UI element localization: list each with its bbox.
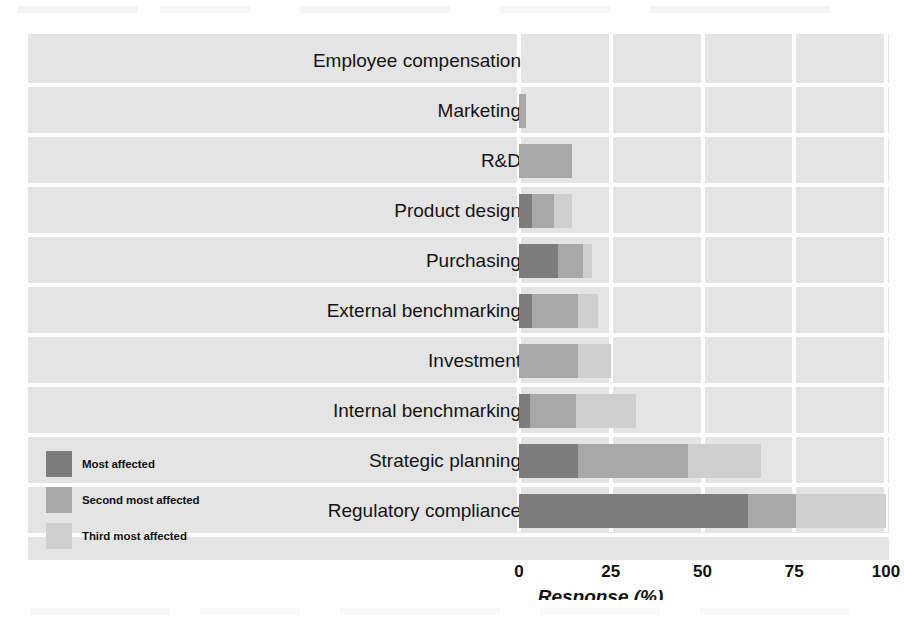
category-label: Employee compensation: [313, 51, 521, 70]
bar-segment: [688, 444, 761, 478]
bar-row: Marketing: [28, 88, 889, 133]
page-margin-bottom: [0, 600, 904, 628]
category-label: R&D: [481, 151, 521, 170]
chart-legend: Most affectedSecond most affectedThird m…: [46, 446, 256, 554]
category-label: External benchmarking: [327, 301, 521, 320]
row-separator: [28, 383, 889, 387]
bar-segment: [576, 394, 637, 428]
legend-swatch: [46, 487, 72, 513]
stacked-bar: [519, 144, 572, 178]
plot-area: Employee compensationMarketingR&DProduct…: [28, 34, 889, 560]
stacked-bar: [519, 94, 526, 128]
legend-swatch: [46, 451, 72, 477]
legend-item: Most affected: [46, 446, 256, 482]
bar-segment: [519, 494, 748, 528]
bar-row: Investment: [28, 338, 889, 383]
bar-segment: [532, 194, 554, 228]
bar-segment: [554, 194, 572, 228]
row-separator: [28, 183, 889, 187]
bar-segment: [558, 244, 584, 278]
tick-label-0: 0: [514, 562, 523, 582]
row-separator: [28, 133, 889, 137]
tick-label-50: 50: [693, 562, 712, 582]
bar-segment: [578, 294, 598, 328]
stacked-bar: [519, 494, 886, 528]
bar-row: Employee compensation: [28, 38, 889, 83]
stacked-bar: [519, 394, 636, 428]
bar-segment: [519, 344, 578, 378]
bar-segment: [583, 244, 592, 278]
stacked-bar: [519, 294, 598, 328]
category-label: Purchasing: [426, 251, 521, 270]
bar-segment: [519, 444, 578, 478]
tick-label-25: 25: [601, 562, 620, 582]
bar-segment: [532, 294, 578, 328]
category-label: Investment: [428, 351, 521, 370]
bar-row: External benchmarking: [28, 288, 889, 333]
bar-segment: [519, 144, 572, 178]
bar-segment: [578, 444, 688, 478]
stacked-bar: [519, 444, 761, 478]
row-separator: [28, 83, 889, 87]
bar-segment: [796, 494, 886, 528]
category-label: Strategic planning: [369, 451, 521, 470]
legend-item: Third most affected: [46, 518, 256, 554]
category-label: Marketing: [438, 101, 521, 120]
legend-label: Most affected: [82, 458, 155, 470]
stacked-bar: [519, 344, 611, 378]
bar-segment: [578, 344, 611, 378]
legend-label: Third most affected: [82, 530, 187, 542]
tick-label-100: 100: [872, 562, 900, 582]
bar-segment: [748, 494, 796, 528]
row-separator: [28, 283, 889, 287]
row-separator: [28, 433, 889, 437]
row-separator: [28, 233, 889, 237]
legend-swatch: [46, 523, 72, 549]
legend-item: Second most affected: [46, 482, 256, 518]
stacked-bar-chart: Employee compensationMarketingR&DProduct…: [0, 30, 904, 600]
legend-label: Second most affected: [82, 494, 200, 506]
tick-label-75: 75: [785, 562, 804, 582]
bar-row: R&D: [28, 138, 889, 183]
bar-segment: [530, 394, 576, 428]
bar-row: Product design: [28, 188, 889, 233]
category-label: Product design: [394, 201, 521, 220]
stacked-bar: [519, 194, 572, 228]
bar-segment: [519, 194, 532, 228]
bar-segment: [519, 394, 530, 428]
stacked-bar: [519, 244, 592, 278]
bar-segment: [519, 294, 532, 328]
row-separator: [28, 333, 889, 337]
x-axis: 0255075100 Response (%): [28, 560, 889, 600]
bar-segment: [519, 94, 526, 128]
bar-segment: [519, 244, 558, 278]
bar-row: Internal benchmarking: [28, 388, 889, 433]
category-label: Regulatory compliance: [328, 501, 521, 520]
bar-row: Purchasing: [28, 238, 889, 283]
page-margin-top: [0, 0, 904, 30]
category-label: Internal benchmarking: [333, 401, 521, 420]
